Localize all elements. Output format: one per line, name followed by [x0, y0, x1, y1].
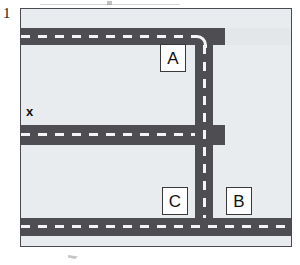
location-label-a-text: A [167, 50, 178, 67]
location-label-a[interactable]: A [160, 44, 186, 72]
map-diagram-frame: A C B x [20, 8, 292, 247]
point-marker-x: x [26, 105, 33, 118]
lane-marking-bottom [21, 225, 292, 228]
lane-marking-top [21, 35, 197, 38]
figure-number: 1 [3, 6, 11, 21]
location-label-c[interactable]: C [162, 187, 188, 215]
location-label-c-text: C [169, 193, 181, 210]
lane-marking-middle [21, 133, 195, 136]
block-top-strip [21, 9, 292, 28]
location-label-b-text: B [233, 193, 244, 210]
block-bottom-strip [21, 236, 292, 247]
lane-marking-vertical [203, 45, 206, 218]
scan-artifact-blob [107, 1, 112, 5]
stray-pencil-mark [68, 255, 78, 259]
location-label-b[interactable]: B [226, 187, 252, 215]
